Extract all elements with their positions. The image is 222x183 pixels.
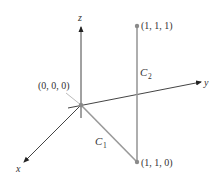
svg-text:2: 2 [148,72,152,81]
svg-text:C: C [95,135,103,147]
x-axis-label: x [15,163,21,174]
z-axis-label: z [77,12,82,23]
label-c2: C 2 [140,66,152,81]
origin-leader-line [66,93,81,105]
label-1-1-0: (1, 1, 0) [141,157,173,169]
point-1-1-1 [135,24,139,28]
label-origin: (0, 0, 0) [38,80,70,92]
svg-text:C: C [140,66,148,78]
point-1-1-0 [135,160,139,164]
3d-axes-diagram: z y x (0, 0, 0) (1, 1, 1) (1, 1, 0) C 1 … [0,0,222,183]
x-axis [24,105,81,162]
label-1-1-1: (1, 1, 1) [141,20,173,32]
curve-c1 [81,105,137,162]
svg-text:1: 1 [103,141,107,150]
label-c1: C 1 [95,135,107,150]
y-axis-label: y [203,77,209,88]
point-origin [79,103,83,107]
y-axis [68,82,201,108]
